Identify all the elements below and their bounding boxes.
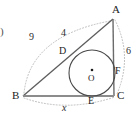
measure-label-arc-BC: x bbox=[62, 103, 66, 113]
enumeration-mark: ) bbox=[0, 26, 4, 37]
incircle-center-dot bbox=[91, 69, 94, 72]
dotted-arc-BC bbox=[24, 97, 115, 105]
tangent-point-label-F: F bbox=[115, 66, 121, 76]
measure-label-arc-BD: 9 bbox=[29, 32, 34, 42]
vertex-label-A: A bbox=[112, 4, 120, 15]
triangle-side-AC bbox=[113, 19, 114, 96]
geometry-figure: ) A B C D E F O 9 4 6 x bbox=[0, 0, 139, 116]
measure-label-arc-AF: 6 bbox=[126, 46, 131, 56]
incircle-center-label: O bbox=[88, 74, 95, 83]
tangent-point-label-E: E bbox=[88, 96, 94, 106]
dotted-arc-AC bbox=[115, 20, 125, 94]
vertex-label-C: C bbox=[117, 90, 124, 101]
triangle-side-AB bbox=[23, 19, 113, 96]
tangent-point-label-D: D bbox=[59, 46, 66, 56]
vertex-label-B: B bbox=[12, 90, 19, 101]
measure-label-segment-AD: 4 bbox=[61, 28, 66, 38]
